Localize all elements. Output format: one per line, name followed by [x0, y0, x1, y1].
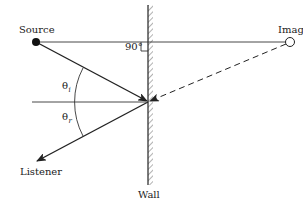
theta-i-symbol: θ: [62, 80, 68, 91]
source-point: [32, 38, 40, 46]
reflected-ray: [37, 102, 148, 161]
source-label: Source: [19, 24, 55, 35]
image-ray-dashed: [150, 44, 286, 101]
listener-label: Listener: [20, 166, 62, 177]
wall: [148, 5, 153, 185]
theta-i-subscript: i: [69, 86, 71, 94]
image-point: [286, 38, 295, 47]
theta-r-subscript: r: [69, 117, 73, 125]
wall-hatch: [148, 5, 153, 185]
theta-r-symbol: θ: [62, 111, 68, 122]
reflection-diagram: 90° Source Image θ i θ r Listener Wall: [0, 0, 303, 209]
image-label: Image: [278, 24, 303, 35]
theta-i-label: θ i: [62, 80, 71, 94]
right-angle-label: 90°: [125, 41, 143, 52]
wall-label: Wall: [138, 189, 160, 200]
theta-r-label: θ r: [62, 111, 73, 125]
